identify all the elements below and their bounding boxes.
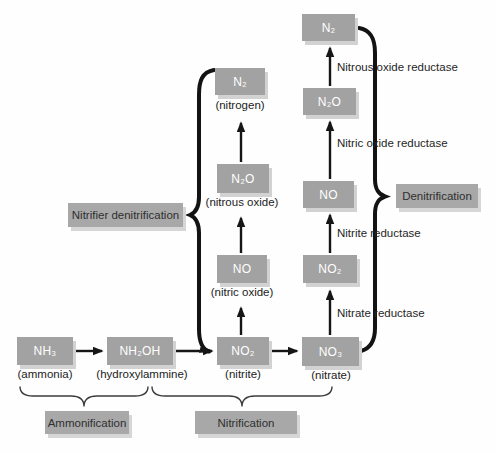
caption-hydroxylammine: (hydroxylammine): [96, 368, 187, 380]
caption-nitrate: (nitrate): [311, 369, 351, 381]
node-no2-right: NO₂: [303, 255, 357, 283]
caption-nitrogen: (nitrogen): [215, 99, 264, 111]
caption-nitrous-oxide: (nitrous oxide): [206, 196, 279, 208]
enzyme-nitric-oxide-reductase: Nitric oxide reductase: [337, 137, 448, 149]
enzyme-nitrite-reductase: Nitrite reductase: [337, 227, 421, 239]
node-n2o-right: N₂O: [303, 88, 356, 115]
process-denitrification: Denitrification: [396, 184, 478, 208]
caption-nitrite: (nitrite): [225, 368, 261, 380]
node-nh2oh: NH₂OH: [107, 337, 173, 365]
brace-nitrification: [152, 387, 332, 407]
process-nitrifier-denitrification: Nitrifier denitrification: [68, 203, 183, 227]
enzyme-nitrate-reductase: Nitrate reductase: [337, 307, 425, 319]
process-nitrification: Nitrification: [195, 411, 297, 434]
process-ammonification: Ammonification: [45, 411, 129, 434]
node-no-mid: NO: [217, 255, 267, 283]
node-n2o-mid: N₂O: [217, 164, 269, 193]
node-nh3: NH₃: [17, 337, 73, 365]
caption-ammonia: (ammonia): [18, 368, 73, 380]
brace-ammonification: [20, 387, 148, 407]
brace-denitrification: [359, 28, 385, 351]
node-n2-mid: N₂: [215, 68, 265, 95]
brace-nitrifier-denitrification: [190, 70, 214, 352]
caption-nitric-oxide: (nitric oxide): [211, 286, 274, 298]
node-n2-right: N₂: [302, 14, 355, 41]
enzyme-nitrous-oxide-reductase: Nitrous oxide reductase: [337, 61, 458, 73]
node-no-right: NO: [303, 181, 354, 208]
nitrogen-cycle-diagram: NH₃ (ammonia) NH₂OH (hydroxylammine) NO₂…: [0, 0, 495, 452]
node-nitrate: NO₃: [302, 337, 359, 366]
node-nitrite: NO₂: [217, 337, 269, 365]
